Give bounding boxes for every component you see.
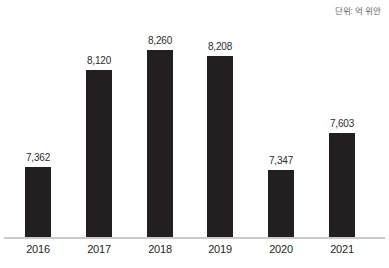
bar-group-2021: 7,603 — [312, 0, 372, 238]
x-axis-label-2018: 2018 — [130, 242, 190, 256]
bar-column: 8,260 — [130, 0, 190, 238]
bar-group-2019: 8,208 — [190, 0, 250, 238]
bar-value-label: 7,362 — [26, 152, 50, 164]
bar-column: 7,347 — [251, 0, 311, 238]
bar-value-label: 7,347 — [269, 155, 293, 167]
bar-group-2016: 7,362 — [8, 0, 68, 238]
bar-rect[interactable] — [268, 170, 294, 238]
bar-value-label: 8,208 — [208, 41, 232, 53]
bar-rect[interactable] — [329, 133, 355, 238]
category-axis: 2016 2017 2018 2019 2020 2021 — [0, 242, 389, 262]
x-axis-baseline — [4, 237, 385, 239]
bar-rect[interactable] — [25, 167, 51, 238]
x-axis-label-2020: 2020 — [251, 242, 311, 256]
plot-area: 7,362 8,120 8,260 8,208 7,347 — [0, 0, 389, 238]
bar-rect[interactable] — [147, 50, 173, 238]
x-axis-label-2017: 2017 — [69, 242, 129, 256]
bar-value-label: 7,603 — [330, 118, 354, 130]
bar-group-2020: 7,347 — [251, 0, 311, 238]
x-axis-label-2019: 2019 — [190, 242, 250, 256]
bar-group-2018: 8,260 — [130, 0, 190, 238]
bar-column: 8,120 — [69, 0, 129, 238]
bar-value-label: 8,260 — [148, 35, 172, 47]
bar-group-2017: 8,120 — [69, 0, 129, 238]
bar-column: 7,362 — [8, 0, 68, 238]
bar-value-label: 8,120 — [87, 55, 111, 67]
x-axis-label-2021: 2021 — [312, 242, 372, 256]
bar-rect[interactable] — [86, 70, 112, 238]
x-axis-label-2016: 2016 — [8, 242, 68, 256]
bar-chart: 단위: 억 위안 7,362 8,120 8,260 8,208 — [0, 0, 389, 268]
bar-column: 8,208 — [190, 0, 250, 238]
bar-column: 7,603 — [312, 0, 372, 238]
bar-rect[interactable] — [207, 56, 233, 238]
